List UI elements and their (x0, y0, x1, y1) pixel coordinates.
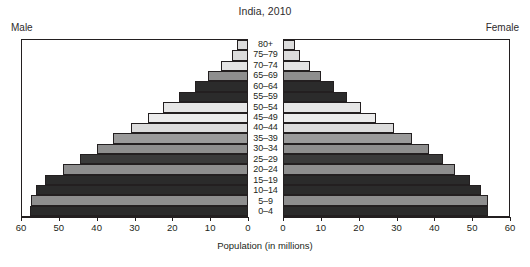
axis-tick (359, 217, 360, 221)
male-bar (30, 206, 247, 216)
female-bar-row (284, 185, 509, 195)
female-bar (284, 92, 347, 102)
female-bar (284, 61, 310, 71)
female-bar (284, 154, 443, 164)
male-panel-label: Male (11, 22, 33, 34)
axis-tick (472, 217, 473, 221)
male-bar (97, 144, 247, 154)
female-bar-row (284, 102, 509, 112)
male-bar (232, 50, 247, 60)
age-group-label: 15–19 (248, 175, 283, 185)
female-bar (284, 195, 488, 205)
female-bar (284, 40, 295, 50)
axis-tick (283, 217, 284, 221)
age-group-label: 75–79 (248, 49, 283, 59)
male-bar-row (22, 195, 247, 205)
female-bar (284, 50, 300, 60)
male-bar (221, 61, 247, 71)
female-bar-row (284, 71, 509, 81)
male-bar-row (22, 40, 247, 50)
male-plot-area (21, 39, 248, 217)
female-bar (284, 175, 470, 185)
male-bar-row (22, 206, 247, 216)
female-bar-row (284, 133, 509, 143)
female-bar-row (284, 61, 509, 71)
female-bar-row (284, 123, 509, 133)
male-x-axis: 6050403020100 (21, 217, 248, 239)
age-group-label: 25–29 (248, 154, 283, 164)
age-group-label: 40–44 (248, 123, 283, 133)
male-bar-row (22, 133, 247, 143)
female-bar (284, 133, 412, 143)
axis-tick (135, 217, 136, 221)
male-bar-row (22, 113, 247, 123)
axis-tick (210, 217, 211, 221)
female-bar-row (284, 164, 509, 174)
male-bar (179, 92, 247, 102)
female-bar-row (284, 92, 509, 102)
female-bar (284, 113, 376, 123)
female-bar (284, 164, 455, 174)
male-bar-row (22, 92, 247, 102)
axis-tick-label: 0 (245, 222, 250, 233)
age-group-label: 5–9 (248, 196, 283, 206)
age-group-label: 50–54 (248, 102, 283, 112)
female-bar-row (284, 50, 509, 60)
axis-tick (97, 217, 98, 221)
male-bar-row (22, 81, 247, 91)
age-group-label: 60–64 (248, 81, 283, 91)
female-bar-row (284, 81, 509, 91)
female-x-axis: 0102030405060 (283, 217, 510, 239)
female-bar-row (284, 40, 509, 50)
male-bar-row (22, 154, 247, 164)
axis-tick-label: 20 (167, 222, 178, 233)
axis-tick-label: 0 (280, 222, 285, 233)
female-bar-row (284, 175, 509, 185)
male-bar (63, 164, 248, 174)
axis-tick-label: 40 (91, 222, 102, 233)
female-bar-row (284, 113, 509, 123)
female-bar (284, 144, 429, 154)
male-bar (208, 71, 247, 81)
axis-tick (434, 217, 435, 221)
male-bar (80, 154, 247, 164)
population-pyramid-chart: India, 2010 Male Female 80+75–7970–7465–… (0, 0, 530, 267)
female-bar-row (284, 195, 509, 205)
female-bar-row (284, 144, 509, 154)
male-bar (113, 133, 247, 143)
male-bar-row (22, 71, 247, 81)
axis-tick (172, 217, 173, 221)
male-bar-row (22, 175, 247, 185)
axis-tick (21, 217, 22, 221)
age-group-label: 10–14 (248, 186, 283, 196)
axis-tick-label: 50 (54, 222, 65, 233)
axis-tick (510, 217, 511, 221)
male-bar (131, 123, 247, 133)
female-bar (284, 185, 481, 195)
axis-tick-label: 40 (429, 222, 440, 233)
female-bar (284, 206, 488, 216)
age-group-label: 0–4 (248, 207, 283, 217)
female-bar-row (284, 154, 509, 164)
male-bar (237, 40, 247, 50)
x-axis-label: Population (in millions) (0, 240, 530, 252)
male-bar-row (22, 102, 247, 112)
male-bar-row (22, 164, 247, 174)
age-group-label: 30–34 (248, 144, 283, 154)
male-bar-row (22, 50, 247, 60)
axis-tick-label: 60 (16, 222, 27, 233)
male-bars (22, 40, 247, 216)
age-group-axis: 80+75–7970–7465–6960–6455–5950–5445–4940… (248, 39, 283, 217)
axis-tick-label: 30 (391, 222, 402, 233)
axis-tick-label: 10 (316, 222, 327, 233)
male-bar (36, 185, 248, 195)
male-bar (148, 113, 247, 123)
axis-tick (248, 217, 249, 221)
axis-tick (321, 217, 322, 221)
male-bar (195, 81, 247, 91)
age-group-label: 35–39 (248, 133, 283, 143)
male-bar-row (22, 61, 247, 71)
axis-tick-label: 50 (467, 222, 478, 233)
axis-tick (59, 217, 60, 221)
male-bar (45, 175, 247, 185)
